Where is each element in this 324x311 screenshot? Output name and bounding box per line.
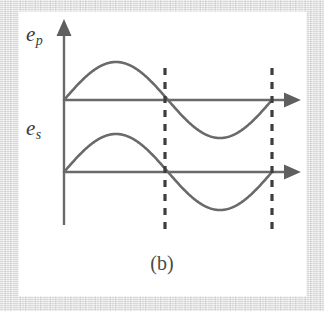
axis-label-ep: ep bbox=[26, 24, 43, 48]
axis-label-ep-subscript: p bbox=[36, 33, 43, 48]
panel-caption: (b) bbox=[0, 252, 324, 275]
axis-label-es-base: e bbox=[26, 116, 35, 140]
axis-label-es-subscript: s bbox=[36, 127, 41, 142]
figure-frame: ep es (b) bbox=[0, 0, 324, 311]
axis-label-ep-base: e bbox=[26, 22, 35, 46]
axis-label-es: es bbox=[26, 118, 41, 142]
